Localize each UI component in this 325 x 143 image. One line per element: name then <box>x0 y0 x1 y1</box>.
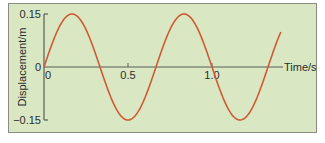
y-tick-label: 0.15 <box>20 8 41 20</box>
displacement-time-chart: 0.150−0.15 00.51.0 Time/s Displacement/m <box>0 0 325 143</box>
x-tick-label: 0 <box>45 69 51 81</box>
y-axis-label: Displacement/m <box>16 28 28 107</box>
x-tick-label: 1.0 <box>204 69 219 81</box>
x-tick-label: 0.5 <box>120 69 135 81</box>
y-tick-label: 0 <box>35 61 41 73</box>
y-tick-label: −0.15 <box>13 114 41 126</box>
x-axis: 00.51.0 <box>44 63 283 81</box>
x-axis-label: Time/s <box>284 61 317 73</box>
